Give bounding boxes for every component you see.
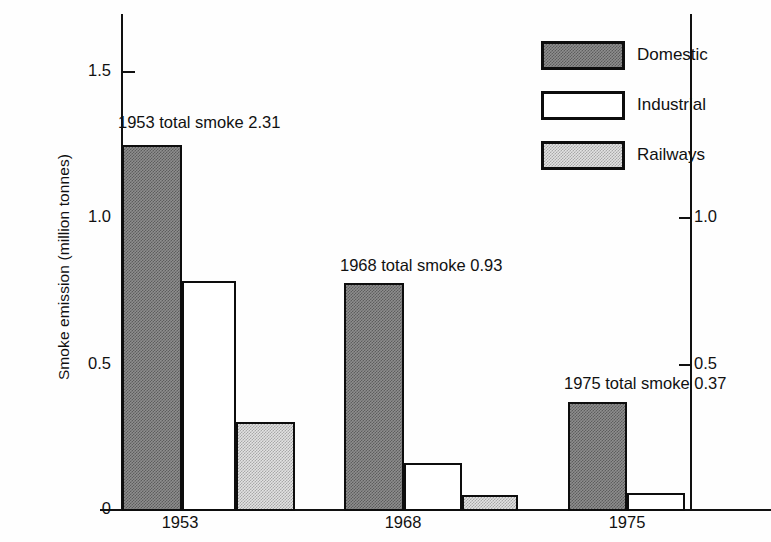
- chart-figure: Smoke emission (million tonnes) 1.51.00.…: [0, 0, 771, 542]
- x-tick-label-1953: 1953: [150, 513, 210, 532]
- legend-label: Domestic: [637, 45, 708, 65]
- x-tick-label-1968: 1968: [373, 513, 433, 532]
- legend-item-industrial: Industrial: [541, 88, 708, 122]
- legend-swatch-railways: [541, 141, 625, 170]
- y-tick-label-left: 0: [51, 499, 111, 519]
- legend-label: Railways: [637, 145, 705, 165]
- y-tick-label-text: 0.5: [51, 354, 111, 373]
- bar-1975-industrial: [627, 493, 685, 511]
- bar-1953-railways: [236, 422, 295, 511]
- legend-swatch-industrial: [541, 91, 625, 120]
- y-tick-label-right: 1.0: [694, 207, 754, 227]
- legend-label: Industrial: [637, 95, 706, 115]
- bar-1953-industrial: [182, 281, 236, 511]
- y-tick-label-left: 1.0: [51, 207, 111, 227]
- legend-item-railways: Railways: [541, 138, 708, 172]
- group-annotation-1968: 1968 total smoke 0.93: [340, 256, 502, 275]
- y-tick-label-left: 1.5: [51, 61, 111, 81]
- bar-1968-domestic: [344, 283, 404, 511]
- y-tick-label-left: 0.5: [51, 354, 111, 374]
- bar-1953-domestic: [122, 145, 182, 511]
- y-tick-label-right: 0.5: [694, 354, 754, 374]
- y-tick-label-text: 1.5: [51, 61, 111, 80]
- bar-1968-railways: [462, 495, 518, 511]
- y-tick-mark-right: [679, 217, 691, 219]
- y-tick-mark-left: [123, 71, 135, 73]
- y-axis-title: Smoke emission (million tonnes): [55, 107, 73, 427]
- group-annotation-1953: 1953 total smoke 2.31: [118, 113, 280, 132]
- bar-1968-industrial: [404, 463, 462, 511]
- y-tick-label-text: 0.5: [694, 354, 754, 373]
- legend-swatch-domestic: [541, 41, 625, 70]
- legend: DomesticIndustrialRailways: [541, 38, 708, 188]
- group-annotation-1975: 1975 total smoke 0.37: [564, 374, 726, 393]
- y-tick-label-text: 1.0: [694, 207, 754, 226]
- legend-item-domestic: Domestic: [541, 38, 708, 72]
- y-tick-mark-right: [679, 364, 691, 366]
- y-tick-label-text: 1.0: [51, 207, 111, 226]
- x-tick-label-1975: 1975: [597, 513, 657, 532]
- bar-1975-domestic: [568, 402, 627, 511]
- y-tick-label-text: 0: [51, 499, 111, 518]
